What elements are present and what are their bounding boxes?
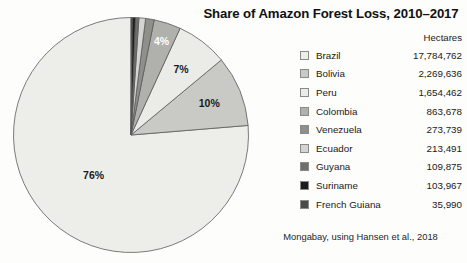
legend-item-venezuela[interactable]: Venezuela273,739 (300, 120, 464, 139)
legend-value-french-guiana: 35,990 (432, 199, 464, 210)
legend-item-guyana[interactable]: Guyana109,875 (300, 158, 464, 177)
legend-item-ecuador[interactable]: Ecuador213,491 (300, 139, 464, 158)
legend-value-peru: 1,654,462 (418, 87, 464, 98)
legend-label-peru: Peru (316, 87, 418, 98)
legend-value-header: Hectares (300, 32, 464, 43)
legend-value-venezuela: 273,739 (427, 124, 464, 135)
pie-svg: 76%10%7%4% (0, 0, 262, 263)
legend-value-ecuador: 213,491 (427, 143, 464, 154)
pie-slice-label-bolivia: 10% (199, 97, 221, 109)
legend-label-french-guiana: French Guiana (316, 199, 432, 210)
legend-label-ecuador: Ecuador (316, 143, 427, 154)
legend-swatch-ecuador (300, 144, 309, 153)
legend-value-bolivia: 2,269,636 (418, 68, 464, 79)
legend-item-suriname[interactable]: Suriname103,967 (300, 176, 464, 195)
legend-label-venezuela: Venezuela (316, 124, 427, 135)
legend-swatch-french-guiana (300, 200, 309, 209)
pie-slice-group (14, 18, 249, 253)
legend-value-guyana: 109,875 (427, 161, 464, 172)
legend-label-colombia: Colombia (316, 106, 427, 117)
legend-item-brazil[interactable]: Brazil17,784,762 (300, 46, 464, 65)
legend-swatch-guyana (300, 162, 309, 171)
legend: Hectares Brazil17,784,762Bolivia2,269,63… (300, 32, 464, 213)
pie-slice-label-colombia: 4% (154, 35, 170, 47)
source-note: Mongabay, using Hansen et al., 2018 (258, 231, 463, 242)
legend-label-guyana: Guyana (316, 161, 427, 172)
pie-chart-figure: Share of Amazon Forest Loss, 2010–2017 7… (0, 0, 467, 263)
legend-rows: Brazil17,784,762Bolivia2,269,636Peru1,65… (300, 46, 464, 213)
legend-value-colombia: 863,678 (427, 106, 464, 117)
legend-item-bolivia[interactable]: Bolivia2,269,636 (300, 65, 464, 84)
legend-item-french-guiana[interactable]: French Guiana35,990 (300, 195, 464, 214)
legend-swatch-suriname (300, 181, 309, 190)
legend-value-brazil: 17,784,762 (413, 50, 464, 61)
legend-swatch-bolivia (300, 69, 309, 78)
legend-label-suriname: Suriname (316, 180, 427, 191)
legend-label-bolivia: Bolivia (316, 68, 418, 79)
legend-item-colombia[interactable]: Colombia863,678 (300, 102, 464, 121)
legend-swatch-brazil (300, 51, 309, 60)
pie-slice-label-peru: 7% (174, 63, 190, 75)
pie-chart: 76%10%7%4% (0, 0, 262, 263)
legend-value-suriname: 103,967 (427, 180, 464, 191)
legend-swatch-colombia (300, 107, 309, 116)
legend-swatch-peru (300, 88, 309, 97)
legend-item-peru[interactable]: Peru1,654,462 (300, 83, 464, 102)
legend-label-brazil: Brazil (316, 50, 413, 61)
legend-swatch-venezuela (300, 125, 309, 134)
pie-slice-label-brazil: 76% (83, 169, 105, 181)
